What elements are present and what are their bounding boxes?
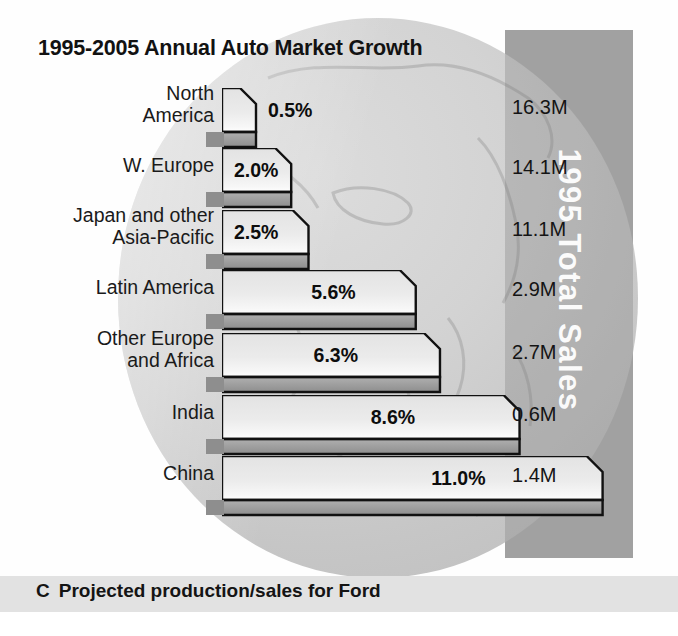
bar-shape-7: [222, 456, 622, 519]
bar-shadow-6: [206, 439, 224, 454]
caption-letter: C: [36, 580, 50, 601]
bar-value-label-2: 2.0%: [234, 159, 278, 182]
category-label-2: W. Europe: [18, 154, 214, 176]
chart-figure: 1995-2005 Annual Auto Market Growth 1995…: [0, 0, 678, 636]
bar-value-label-3: 2.5%: [234, 221, 278, 244]
bar-value-label-1: 0.5%: [268, 99, 312, 122]
category-label-line1: China: [18, 462, 214, 484]
category-label-5: Other Europe and Africa: [18, 327, 214, 371]
figure-caption: CProjected production/sales for Ford: [36, 580, 381, 602]
bar-value-label-6: 8.6%: [371, 406, 415, 429]
total-sales-label-2: 14.1M: [512, 156, 568, 179]
category-label-6: India: [18, 401, 214, 423]
bar-value-label-4: 5.6%: [311, 281, 355, 304]
category-label-7: China: [18, 462, 214, 484]
bar-value-label-5: 6.3%: [314, 344, 358, 367]
bar-shadow-5: [206, 377, 224, 392]
category-label-line1: India: [18, 401, 214, 423]
category-label-3: Japan and other Asia-Pacific: [18, 204, 214, 248]
category-label-4: Latin America: [18, 276, 214, 298]
category-label-line2: Asia-Pacific: [18, 226, 214, 248]
total-sales-label-3: 11.1M: [512, 218, 566, 241]
plot-area: 0.5%North America16.3M: [0, 0, 678, 636]
category-label-line1: W. Europe: [18, 154, 214, 176]
total-sales-label-5: 2.7M: [512, 341, 556, 364]
bar-shadow-1: [206, 132, 224, 147]
total-sales-label-7: 1.4M: [512, 464, 556, 487]
bar-value-label-7: 11.0%: [431, 467, 485, 490]
total-sales-label-4: 2.9M: [512, 278, 556, 301]
category-label-line1: North: [18, 82, 214, 104]
caption-text: Projected production/sales for Ford: [59, 580, 381, 601]
bar-shadow-7: [206, 500, 224, 515]
category-label-line2: and Africa: [18, 349, 214, 371]
bar-7: [222, 456, 622, 519]
category-label-line2: America: [18, 104, 214, 126]
category-label-1: North America: [18, 82, 214, 126]
total-sales-label-1: 16.3M: [512, 96, 568, 119]
footer-spacer: [0, 612, 678, 636]
bar-shadow-3: [206, 254, 224, 269]
category-label-line1: Latin America: [18, 276, 214, 298]
total-sales-label-6: 0.6M: [512, 403, 556, 426]
category-label-line1: Japan and other: [18, 204, 214, 226]
category-label-line1: Other Europe: [18, 327, 214, 349]
